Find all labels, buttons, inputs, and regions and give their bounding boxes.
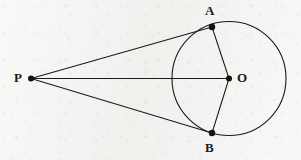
point-label-A: A bbox=[205, 4, 215, 17]
segment-AO bbox=[212, 27, 229, 79]
geometry-canvas bbox=[0, 0, 301, 160]
point-P-dot bbox=[28, 76, 34, 82]
segment-PB bbox=[31, 79, 212, 134]
segment-PA bbox=[31, 27, 212, 79]
point-label-B: B bbox=[205, 141, 214, 154]
point-O-dot bbox=[226, 76, 232, 82]
geometry-figure: P A B O bbox=[0, 0, 301, 160]
point-label-P: P bbox=[14, 71, 22, 84]
segment-BO bbox=[212, 79, 229, 134]
point-B-dot bbox=[209, 130, 215, 136]
point-A-dot bbox=[209, 24, 215, 30]
point-label-O: O bbox=[237, 71, 247, 84]
